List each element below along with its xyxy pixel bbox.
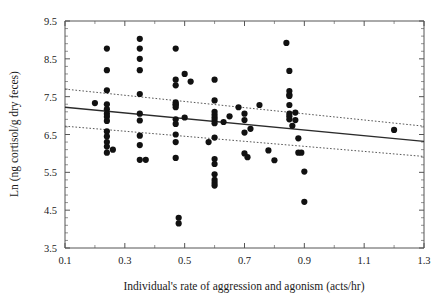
data-point [104,67,110,73]
x-tick-label: 1.1 [358,255,371,266]
data-point [188,78,194,84]
data-point [295,135,301,141]
data-point [173,139,179,145]
data-point [244,154,250,160]
x-tick-label: 0.3 [118,255,131,266]
data-point [298,150,304,156]
data-point [110,147,116,153]
data-point [137,56,143,62]
data-point [292,117,298,123]
data-point [211,77,217,83]
data-point [173,104,179,110]
data-point [176,220,182,226]
data-point [301,168,307,174]
data-point [143,157,149,163]
data-point [92,100,98,106]
data-point [137,133,143,139]
y-tick-label: 9.5 [44,16,57,27]
data-point [211,134,217,140]
data-point [301,199,307,205]
data-point [206,139,212,145]
data-point [173,82,179,88]
y-tick-label: 3.5 [44,243,57,254]
scatter-plot-figure: 0.10.30.50.70.91.11.3 9.58.57.56.55.54.5… [0,0,446,308]
y-tick-label: 5.5 [44,167,57,178]
data-point [235,104,241,110]
data-point [292,109,298,115]
data-point [104,150,110,156]
data-point [241,130,247,136]
data-point [173,46,179,52]
y-tick-label: 4.5 [44,205,57,216]
data-point [271,157,277,163]
data-point [104,144,110,150]
data-point [173,155,179,161]
data-point [241,117,247,123]
data-point [137,111,143,117]
data-point [286,116,292,122]
y-tick-label: 8.5 [44,54,57,65]
x-tick-label: 0.9 [298,255,311,266]
data-point [226,113,232,119]
data-point [104,118,110,124]
data-point [256,102,262,108]
x-axis-title: Individual's rate of aggression and agon… [124,280,365,293]
data-point [137,157,143,163]
data-point [211,182,217,188]
data-point [173,77,179,83]
data-point [104,133,110,139]
data-point [176,215,182,221]
data-point [137,36,143,42]
data-point [211,171,217,177]
data-point [241,111,247,117]
data-point [182,114,188,120]
x-tick-label: 0.1 [58,255,71,266]
data-point [286,68,292,74]
data-point [211,120,217,126]
data-point [391,127,397,133]
data-point [283,40,289,46]
data-point [137,46,143,52]
data-point [137,117,143,123]
data-point [173,131,179,137]
data-point [289,123,295,129]
x-tick-label: 0.7 [238,255,251,266]
data-point [137,67,143,73]
y-tick-label: 6.5 [44,130,57,141]
data-point [137,142,143,148]
data-point [104,87,110,93]
x-tick-label: 1.3 [417,255,430,266]
x-tick-label: 0.5 [178,255,191,266]
data-point [211,97,217,103]
data-point [247,126,253,132]
data-point [220,119,226,125]
data-point [182,71,188,77]
data-point [286,93,292,99]
data-point [265,147,271,153]
y-tick-label: 7.5 [44,92,57,103]
data-point [104,46,110,52]
data-point [173,121,179,127]
y-axis-title: Ln (ng cortisol/g dry feces) [8,71,21,197]
data-point [286,102,292,108]
data-point [137,91,143,97]
data-point [211,161,217,167]
